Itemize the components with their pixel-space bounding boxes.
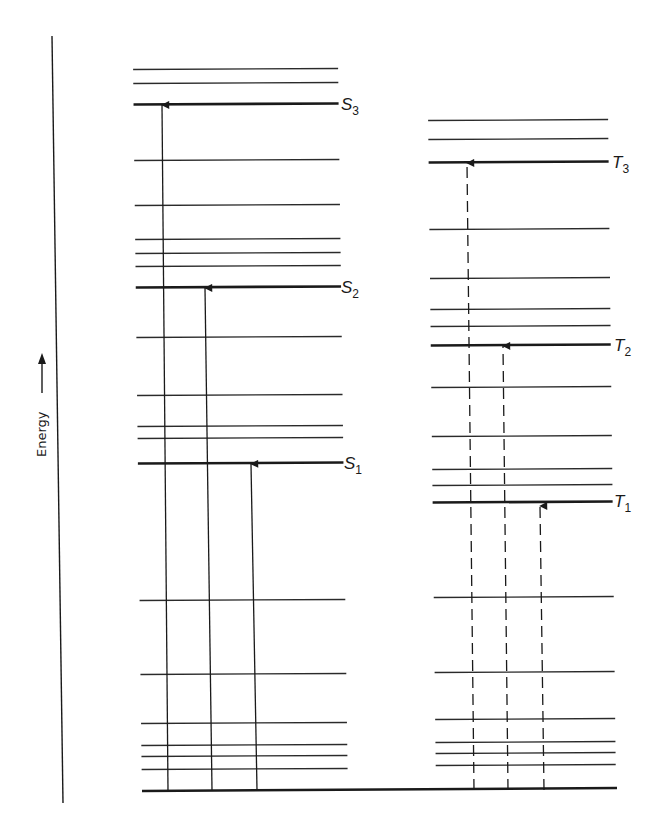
vibrational-level: [140, 674, 346, 675]
vibrational-level: [137, 395, 342, 396]
energy-level-diagram: Energy S3 S2 S1 T3 T2 T1: [0, 0, 664, 832]
vibrational-level: [434, 597, 614, 598]
vibrational-level: [134, 160, 339, 161]
vibrational-level: [432, 436, 612, 437]
vibrational-level: [141, 745, 347, 746]
transition-arrow-t1: [540, 506, 544, 790]
triplet-levels: [428, 120, 616, 766]
level-t3: [429, 162, 609, 163]
vibrational-level: [136, 337, 341, 338]
t2-label: T2: [614, 336, 631, 359]
vibrational-level: [138, 438, 344, 439]
vibrational-level: [435, 742, 615, 743]
energy-arrowhead-icon: [38, 353, 46, 364]
vibrational-level: [429, 229, 609, 230]
transition-arrow-s3: [162, 105, 168, 790]
level-t1: [433, 502, 613, 503]
s2-label: S2: [341, 278, 359, 301]
energy-axis-line: [52, 36, 63, 803]
level-s1: [138, 463, 344, 464]
s3-label: S3: [341, 95, 359, 118]
vibrational-level: [137, 426, 342, 427]
energy-label: Energy: [34, 411, 49, 457]
vibrational-level: [432, 469, 612, 470]
level-s2: [136, 287, 341, 288]
transition-arrow-t3: [467, 163, 474, 790]
vibrational-level: [431, 387, 611, 388]
vibrational-level: [135, 239, 340, 240]
s1-label: S1: [344, 454, 362, 477]
t3-label: T3: [612, 153, 629, 176]
vibrational-level: [428, 139, 608, 140]
transition-arrow-t2: [503, 346, 508, 790]
transition-arrow-s1: [251, 464, 257, 790]
transitions: [162, 105, 544, 790]
vibrational-level: [428, 120, 608, 121]
vibrational-level: [133, 69, 338, 70]
transition-arrow-s2: [205, 288, 212, 790]
energy-axis-label: Energy: [34, 353, 49, 457]
vibrational-level: [142, 769, 348, 770]
vibrational-level: [430, 278, 610, 279]
level-t2: [431, 345, 611, 346]
vibrational-level: [141, 756, 347, 757]
t1-label: T1: [614, 492, 631, 515]
vibrational-level: [436, 753, 616, 754]
vibrational-level: [430, 309, 610, 310]
vibrational-level: [435, 719, 615, 720]
vibrational-level: [436, 765, 616, 766]
ground-state-level: [142, 788, 617, 791]
vibrational-level: [133, 83, 338, 84]
level-s3: [134, 104, 339, 105]
vibrational-level: [431, 326, 611, 327]
vibrational-level: [141, 723, 347, 724]
vibrational-level: [435, 672, 615, 673]
vibrational-level: [432, 485, 612, 486]
vibrational-level: [135, 253, 340, 254]
vibrational-level: [135, 205, 340, 206]
vibrational-level: [140, 600, 346, 601]
vibrational-level: [136, 266, 341, 267]
